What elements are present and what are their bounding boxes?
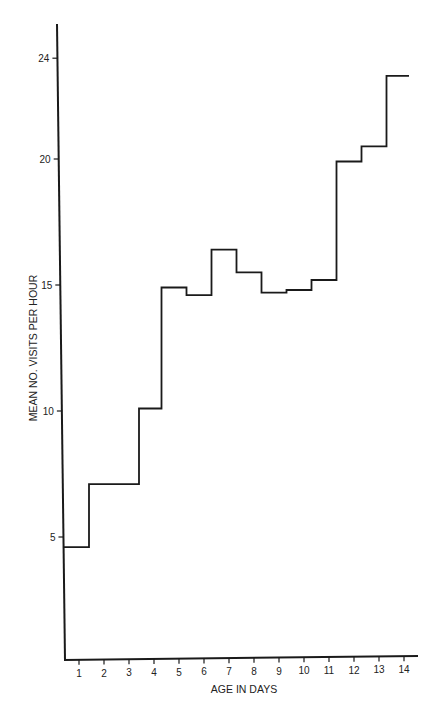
x-tick-label: 6	[201, 666, 207, 677]
x-axis-line	[64, 656, 418, 660]
x-tick-label: 10	[298, 665, 310, 676]
x-tick-label: 3	[126, 667, 132, 678]
y-tick-label: 20	[40, 154, 52, 165]
x-tick-label: 14	[398, 664, 410, 675]
x-tick-label: 2	[101, 668, 107, 679]
y-tick-label: 15	[41, 280, 53, 291]
x-tick-label: 13	[373, 664, 385, 675]
y-tick-label: 5	[50, 532, 56, 543]
y-axis	[57, 24, 65, 660]
x-tick-label: 7	[226, 666, 232, 677]
y-axis-title: MEAN NO. VISITS PER HOUR	[27, 274, 39, 421]
step-chart: 510152024 1234567891011121314 MEAN NO. V…	[0, 0, 445, 712]
x-tick-label: 9	[276, 666, 282, 677]
x-tick-label: 1	[76, 668, 82, 679]
x-tick-label: 8	[251, 666, 257, 677]
y-axis-line	[57, 24, 65, 660]
y-tick-label: 10	[43, 406, 55, 417]
x-tick-label: 12	[348, 665, 360, 676]
y-tick-label: 24	[38, 53, 50, 64]
x-axis	[64, 656, 418, 660]
data-step-line	[64, 76, 409, 547]
x-axis-title: AGE IN DAYS	[211, 683, 277, 695]
x-tick-label: 5	[176, 667, 182, 678]
x-tick-label: 11	[324, 665, 335, 676]
x-tick-label: 4	[151, 667, 157, 678]
